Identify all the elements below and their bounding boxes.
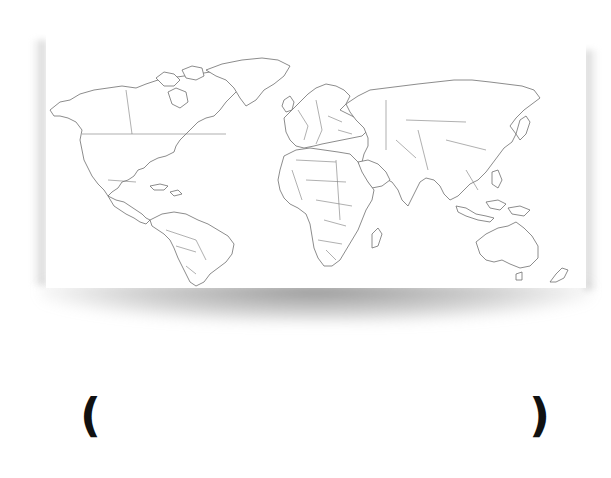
- landmass-philippines: [492, 170, 502, 188]
- world-map-svg: [46, 30, 586, 288]
- world-map: [46, 30, 586, 288]
- close-parenthesis: ): [529, 385, 550, 445]
- landmass-madagascar: [372, 228, 382, 248]
- map-side-shadow-right: [584, 50, 598, 290]
- map-side-shadow-left: [32, 40, 46, 285]
- continent-australia: [476, 222, 538, 268]
- landmass-tasmania: [516, 272, 522, 280]
- continent-south-america: [150, 212, 234, 286]
- continent-north-america: [50, 66, 260, 196]
- landmass-indonesia: [456, 200, 530, 222]
- open-parenthesis: (: [80, 385, 101, 445]
- landmass-caribbean: [150, 184, 182, 196]
- answer-blank[interactable]: [110, 395, 520, 439]
- landmass-japan: [516, 116, 530, 140]
- continent-africa: [278, 148, 374, 266]
- landmass-new-zealand: [550, 268, 568, 282]
- answer-row: ( ): [0, 385, 611, 455]
- continent-central-america: [108, 196, 150, 224]
- map-drop-shadow: [40, 282, 592, 324]
- landmass-british-isles: [282, 96, 294, 112]
